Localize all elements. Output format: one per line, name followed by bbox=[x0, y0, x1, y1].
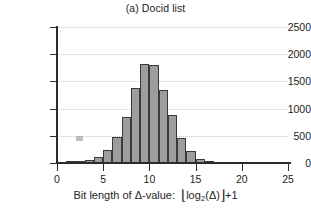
bar bbox=[177, 138, 186, 163]
y-tick-label: 2500 bbox=[265, 21, 311, 33]
y-tick-label: 2000 bbox=[265, 48, 311, 60]
x-tick-5 bbox=[103, 163, 104, 171]
y-tick-label: 1500 bbox=[265, 75, 311, 87]
log-text: log bbox=[186, 189, 201, 201]
histogram-figure: (a) Docid list 05001000150020002500 0510… bbox=[0, 0, 311, 215]
bar bbox=[159, 90, 168, 163]
plot-area bbox=[57, 27, 288, 163]
bar-series bbox=[57, 27, 288, 163]
y-tick-label: 500 bbox=[265, 130, 311, 142]
y-tick-1500 bbox=[50, 81, 57, 82]
x-tick-20 bbox=[242, 163, 243, 171]
bar bbox=[131, 88, 140, 163]
y-tick-label: 1000 bbox=[265, 103, 311, 115]
x-tick-label: 20 bbox=[222, 173, 262, 185]
x-tick-label: 25 bbox=[268, 173, 308, 185]
x-tick-0 bbox=[57, 163, 58, 171]
x-tick-15 bbox=[196, 163, 197, 171]
x-tick-label: 15 bbox=[176, 173, 216, 185]
y-tick-1000 bbox=[50, 109, 57, 110]
x-axis-label: Bit length of Δ-value: ⌊log2(Δ)⌋+1 bbox=[0, 189, 311, 203]
bar bbox=[149, 65, 158, 163]
y-tick-0 bbox=[50, 163, 57, 164]
x-axis-label-suffix: +1 bbox=[225, 189, 238, 201]
bar bbox=[140, 64, 149, 163]
x-tick-10 bbox=[149, 163, 150, 171]
y-tick-2000 bbox=[50, 54, 57, 55]
x-axis-line bbox=[56, 162, 291, 164]
x-tick-label: 10 bbox=[129, 173, 169, 185]
y-tick-2500 bbox=[50, 27, 57, 28]
bar bbox=[122, 117, 131, 163]
y-axis-line bbox=[56, 26, 58, 164]
chart-title: (a) Docid list bbox=[0, 2, 311, 14]
x-axis-label-prefix: Bit length of Δ-value: bbox=[73, 189, 175, 201]
x-tick-label: 5 bbox=[83, 173, 123, 185]
x-tick-label: 0 bbox=[37, 173, 77, 185]
bar bbox=[168, 115, 177, 163]
scan-artifact-speck bbox=[76, 136, 83, 141]
y-tick-500 bbox=[50, 136, 57, 137]
x-tick-25 bbox=[288, 163, 289, 171]
log-argument: (Δ) bbox=[205, 189, 220, 201]
bar bbox=[112, 137, 121, 163]
